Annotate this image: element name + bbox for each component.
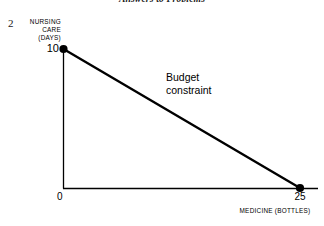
endpoint-marker-y-intercept bbox=[59, 45, 67, 53]
budget-constraint-annotation: Budget constraint bbox=[166, 71, 212, 97]
y-axis-title-line-1: NURSING bbox=[18, 18, 61, 26]
x-axis-title: MEDICINE (BOTTLES) bbox=[228, 207, 322, 214]
y-axis-title-line-2: CARE bbox=[18, 26, 61, 34]
annotation-line-1: Budget bbox=[166, 71, 212, 84]
x-intercept-label: 25 bbox=[288, 191, 312, 202]
annotation-line-2: constraint bbox=[166, 84, 212, 97]
budget-constraint-line bbox=[64, 49, 301, 188]
y-intercept-label: 10 bbox=[38, 42, 59, 54]
origin-label: 0 bbox=[57, 191, 63, 202]
y-axis-title: NURSING CARE (DAYS) bbox=[18, 18, 61, 43]
